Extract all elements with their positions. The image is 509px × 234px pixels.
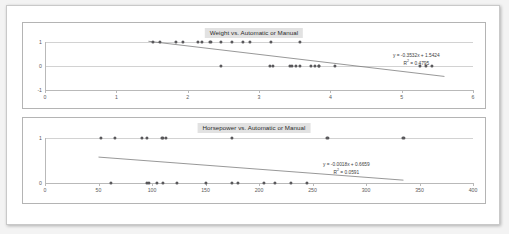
horsepower-chart-trendline-annotation: y = -0.0018x + 0.6659 R2 = 0.0591: [323, 161, 370, 176]
document-sheet: 10-10123456 Weight vs. Automatic or Manu…: [6, 5, 500, 225]
weight-chart-panel[interactable]: 10-10123456 Weight vs. Automatic or Manu…: [22, 22, 486, 109]
horsepower-chart-title: Horsepower vs. Automatic or Manual: [198, 123, 311, 133]
horsepower-chart-r-squared: R2 = 0.0591: [323, 168, 370, 176]
horsepower-chart-equation: y = -0.0018x + 0.6659: [323, 161, 370, 168]
weight-chart-title: Weight vs. Automatic or Manual: [205, 28, 303, 38]
weight-chart-r-squared: R2 = 0.4795: [393, 59, 440, 67]
weight-chart-equation: y = -0.3532x + 1.5424: [393, 52, 440, 59]
horsepower-chart-panel[interactable]: 10050100150200250300350400 Horsepower vs…: [22, 117, 486, 204]
page-background: 10-10123456 Weight vs. Automatic or Manu…: [0, 0, 509, 234]
weight-chart-trendline-annotation: y = -0.3532x + 1.5424 R2 = 0.4795: [393, 52, 440, 67]
